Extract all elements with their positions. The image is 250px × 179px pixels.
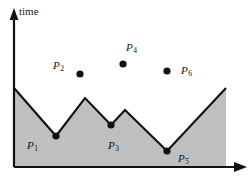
y-axis-label-time: time xyxy=(19,6,39,17)
point-dot-p6 xyxy=(163,67,170,74)
y-axis-arrowhead-icon xyxy=(10,8,19,20)
point-dot-p1 xyxy=(52,132,59,139)
point-dot-p3 xyxy=(107,121,114,128)
x-axis-arrowhead-icon xyxy=(234,162,247,172)
point-label-p5: P5 xyxy=(178,153,188,164)
point-dot-p5 xyxy=(163,147,170,154)
point-label-p1: P1 xyxy=(27,140,37,151)
point-label-p6: P6 xyxy=(181,65,191,76)
point-label-p3: P3 xyxy=(108,140,118,151)
terrain-shaded-region xyxy=(14,88,226,167)
point-dot-p4 xyxy=(119,60,126,67)
point-dot-p2 xyxy=(76,70,83,77)
point-label-p4: P4 xyxy=(126,42,136,53)
figure-container: time P1P3P5P2P4P6 xyxy=(0,0,250,179)
point-label-p2: P2 xyxy=(53,60,63,71)
